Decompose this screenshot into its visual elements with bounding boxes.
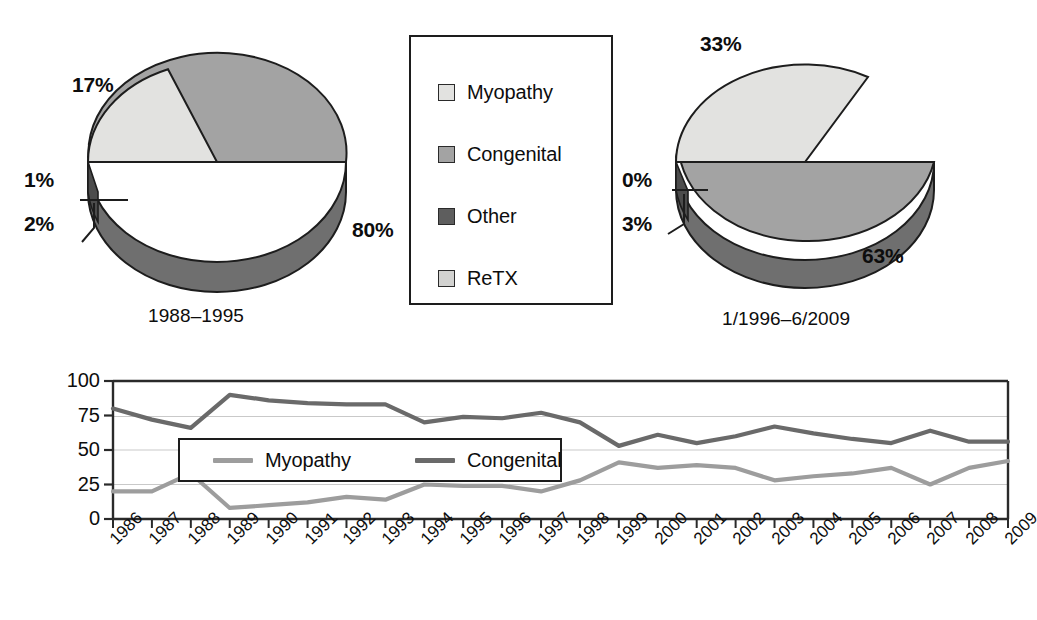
pie-right-svg (660, 38, 950, 298)
pie-legend-item-other[interactable]: Other (438, 185, 611, 247)
line-chart-xtick-1992: 1992 (339, 508, 380, 549)
line-chart-xtick-1996: 1996 (495, 508, 536, 549)
pie-left-side (88, 162, 346, 292)
line-chart-xtick-1999: 1999 (612, 508, 653, 549)
line-chart-xtick-1994: 1994 (417, 508, 458, 549)
line-chart: % of cases (0, 348, 1037, 620)
line-chart-xtick-2000: 2000 (651, 508, 692, 549)
line-legend-label-myopathy: Myopathy (265, 449, 351, 472)
line-chart-xtick-1987: 1987 (145, 508, 186, 549)
pie-left-label-myopathy: 17% (72, 73, 113, 97)
pie-right-label-retx: 0% (622, 168, 652, 192)
line-chart-xtick-1990: 1990 (262, 508, 303, 549)
pie-legend-label-congenital: Congenital (467, 143, 562, 166)
pie-legend-item-myopathy[interactable]: Myopathy (438, 61, 611, 123)
legend-line-myopathy-icon (213, 458, 253, 463)
figure-root: 17% 1% 2% 80% 1988–1995 Myopathy Congeni… (0, 0, 1037, 620)
line-chart-xtick-2007: 2007 (923, 508, 964, 549)
line-chart-xtick-1998: 1998 (573, 508, 614, 549)
line-chart-xtick-labels: 1986198719881989199019911992199319941995… (0, 348, 1037, 620)
legend-swatch-retx-icon (438, 270, 455, 287)
legend-line-congenital-icon (415, 458, 455, 463)
pie-right-label-myopathy: 33% (700, 32, 741, 56)
pie-left-label-other: 2% (24, 212, 54, 236)
pie-right-slice-myopathy (676, 65, 868, 162)
line-chart-xtick-1995: 1995 (456, 508, 497, 549)
line-chart-xtick-1989: 1989 (223, 508, 264, 549)
line-chart-xtick-1988: 1988 (184, 508, 225, 549)
pie-legend-label-myopathy: Myopathy (467, 81, 553, 104)
pie-legend-list: Myopathy Congenital Other ReTX (411, 37, 611, 303)
line-legend-item-myopathy[interactable]: Myopathy (213, 449, 351, 472)
line-chart-xtick-2005: 2005 (845, 508, 886, 549)
line-chart-xtick-1991: 1991 (301, 508, 342, 549)
pie-chart-left (72, 28, 362, 298)
pie-legend-label-retx: ReTX (467, 267, 518, 290)
legend-swatch-congenital-icon (438, 146, 455, 163)
line-chart-xtick-2001: 2001 (690, 508, 731, 549)
pie-right-caption: 1/1996–6/2009 (722, 308, 850, 330)
pie-right-label-congenital: 63% (862, 244, 903, 268)
pie-legend-label-other: Other (467, 205, 517, 228)
pie-left-caption: 1988–1995 (148, 305, 244, 327)
pie-right-label-other: 3% (622, 212, 652, 236)
line-chart-xtick-2006: 2006 (884, 508, 925, 549)
pie-legend-item-congenital[interactable]: Congenital (438, 123, 611, 185)
line-chart-xtick-2009: 2009 (1001, 508, 1037, 549)
line-chart-xtick-1986: 1986 (106, 508, 147, 549)
pie-left-label-retx: 1% (24, 168, 54, 192)
line-chart-xtick-2008: 2008 (962, 508, 1003, 549)
line-chart-xtick-2002: 2002 (729, 508, 770, 549)
line-chart-xtick-1997: 1997 (534, 508, 575, 549)
pie-legend-box: Myopathy Congenital Other ReTX (409, 35, 613, 305)
line-legend-label-congenital: Congenital (467, 449, 562, 472)
pie-left-label-congenital: 80% (352, 218, 393, 242)
line-chart-legend: Myopathy Congenital (178, 438, 562, 482)
line-chart-xtick-2004: 2004 (806, 508, 847, 549)
pie-chart-right (660, 38, 950, 298)
legend-swatch-other-icon (438, 208, 455, 225)
pie-left-svg (72, 28, 362, 298)
pie-legend-item-retx[interactable]: ReTX (438, 247, 611, 309)
legend-swatch-myopathy-icon (438, 84, 455, 101)
line-legend-item-congenital[interactable]: Congenital (415, 449, 562, 472)
line-chart-xtick-2003: 2003 (768, 508, 809, 549)
line-chart-xtick-1993: 1993 (378, 508, 419, 549)
